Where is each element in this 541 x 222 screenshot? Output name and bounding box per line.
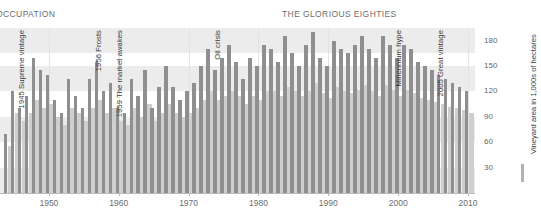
chart-annotation: 2005 Great vintage	[436, 30, 445, 96]
bar-dark	[4, 134, 8, 193]
chart-annotation: Oil crisis	[213, 30, 222, 60]
bar-dark	[157, 87, 161, 193]
bar-dark	[25, 96, 29, 193]
x-tick	[119, 193, 120, 196]
chart-annotation: 1956 Frosts	[94, 30, 103, 71]
bar-dark	[74, 96, 78, 193]
bar-dark	[60, 113, 64, 193]
y-tick-label: 120	[484, 86, 497, 95]
bar-dark	[39, 70, 43, 193]
bar-light	[469, 113, 474, 193]
bar-dark	[220, 58, 224, 193]
x-tick	[49, 193, 50, 196]
legend-swatch	[521, 164, 524, 182]
bar-dark	[143, 70, 147, 193]
y-tick-label: 30	[484, 163, 493, 172]
bar-dark	[18, 108, 22, 193]
x-tick	[258, 193, 259, 196]
x-tick	[328, 193, 329, 196]
chart-annotation: 1959 The market awakes	[115, 30, 124, 117]
bar-dark	[32, 58, 36, 193]
y-tick-label: 90	[484, 112, 493, 121]
x-tick	[398, 193, 399, 196]
bar-dark	[171, 87, 175, 193]
x-tick-label: 1980	[249, 198, 268, 208]
bar-dark	[269, 49, 273, 193]
bar-dark	[416, 62, 420, 193]
bar-dark	[283, 36, 287, 193]
y-tick-label: 150	[484, 61, 497, 70]
bar-dark	[199, 66, 203, 193]
bar-dark	[11, 91, 15, 193]
y-tick-label: 60	[484, 137, 493, 146]
chart-title: THE GLORIOUS EIGHTIES	[282, 9, 397, 19]
x-tick-label: 1970	[179, 198, 198, 208]
bar-dark	[136, 96, 140, 193]
bar-dark	[262, 45, 266, 193]
legend-label: Vineyard area in 1,000s of hectares	[529, 34, 538, 154]
bar-dark	[304, 45, 308, 193]
plot-area	[0, 28, 475, 193]
bar-dark	[213, 70, 217, 193]
header-left-label: OCCUPATION	[0, 9, 55, 19]
bar-dark	[67, 79, 71, 193]
bar-dark	[290, 53, 294, 193]
bar-dark	[46, 75, 50, 193]
bar-dark	[164, 66, 168, 193]
bar-dark	[297, 66, 301, 193]
bar-dark	[311, 32, 315, 193]
x-tick-label: 2010	[459, 198, 478, 208]
bar-dark	[150, 108, 154, 193]
x-axis-line	[0, 193, 475, 194]
bar-dark	[123, 113, 127, 193]
bar-dark	[353, 45, 357, 193]
bar-dark	[130, 79, 134, 193]
bar-dark	[318, 58, 322, 193]
bar-dark	[53, 100, 57, 193]
y-tick-label: 180	[484, 36, 497, 45]
bar-dark	[109, 83, 113, 193]
bar-dark	[81, 108, 85, 193]
bar-dark	[192, 83, 196, 193]
bar-dark	[458, 87, 462, 193]
bar-dark	[367, 49, 371, 193]
x-tick-label: 1950	[39, 198, 58, 208]
bar-dark	[346, 53, 350, 193]
bar-dark	[227, 45, 231, 193]
bar-dark	[116, 108, 120, 193]
chart-annotation: 1945 Supreme vintage	[17, 30, 26, 108]
chart-root: OCCUPATION THE GLORIOUS EIGHTIES 1945 Su…	[0, 0, 541, 222]
x-tick-label: 1990	[319, 198, 338, 208]
bar-dark	[178, 100, 182, 193]
bar-series-container	[0, 28, 475, 193]
bar-dark	[388, 45, 392, 193]
bar-dark	[234, 62, 238, 193]
bar-dark	[360, 36, 364, 193]
x-tick-label: 1960	[109, 198, 128, 208]
bar-dark	[248, 58, 252, 193]
bar-dark	[339, 49, 343, 193]
bar-dark	[325, 66, 329, 193]
bar-dark	[430, 70, 434, 193]
bar-dark	[423, 66, 427, 193]
x-tick-label: 2000	[389, 198, 408, 208]
bar-dark	[241, 79, 245, 193]
bar-dark	[88, 79, 92, 193]
bar-dark	[381, 36, 385, 193]
bar-dark	[255, 66, 259, 193]
chart-header: OCCUPATION THE GLORIOUS EIGHTIES	[0, 9, 541, 23]
bar-dark	[332, 41, 336, 193]
bar-dark	[451, 83, 455, 193]
bar-dark	[374, 58, 378, 193]
bar-dark	[465, 91, 469, 193]
chart-annotation: Millennium hype	[394, 30, 403, 86]
bar-dark	[206, 49, 210, 193]
x-tick	[189, 193, 190, 196]
bar-dark	[409, 49, 413, 193]
legend: Vineyard area in 1,000s of hectares	[519, 36, 541, 186]
bar-dark	[102, 91, 106, 193]
bar-dark	[276, 62, 280, 193]
x-tick	[468, 193, 469, 196]
bar-dark	[95, 62, 99, 193]
bar-dark	[185, 91, 189, 193]
